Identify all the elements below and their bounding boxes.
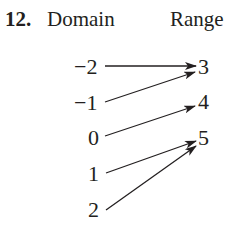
mapping-arrows xyxy=(0,0,240,238)
arrow-icon xyxy=(106,146,196,210)
arrow-icon xyxy=(105,72,195,102)
arrow-icon xyxy=(106,141,196,173)
arrow-icon xyxy=(105,106,195,136)
